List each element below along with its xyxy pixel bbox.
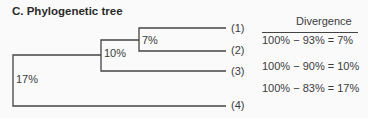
leaf-label-1: (1) (231, 22, 244, 34)
leaf-label-3: (3) (231, 65, 244, 77)
divergence-equation-3: 100% − 83% = 17% (262, 82, 359, 94)
node-label-17: 17% (16, 73, 38, 85)
divergence-rule (262, 32, 358, 33)
leaf-label-2: (2) (231, 44, 244, 56)
node-label-7: 7% (142, 34, 158, 46)
leaf-label-4: (4) (231, 99, 244, 111)
divergence-equation-2: 100% − 90% = 10% (262, 60, 359, 72)
divergence-header: Divergence (296, 15, 352, 27)
node-label-10: 10% (104, 47, 126, 59)
branch-root (13, 55, 226, 106)
divergence-equation-1: 100% − 93% = 7% (262, 34, 353, 46)
